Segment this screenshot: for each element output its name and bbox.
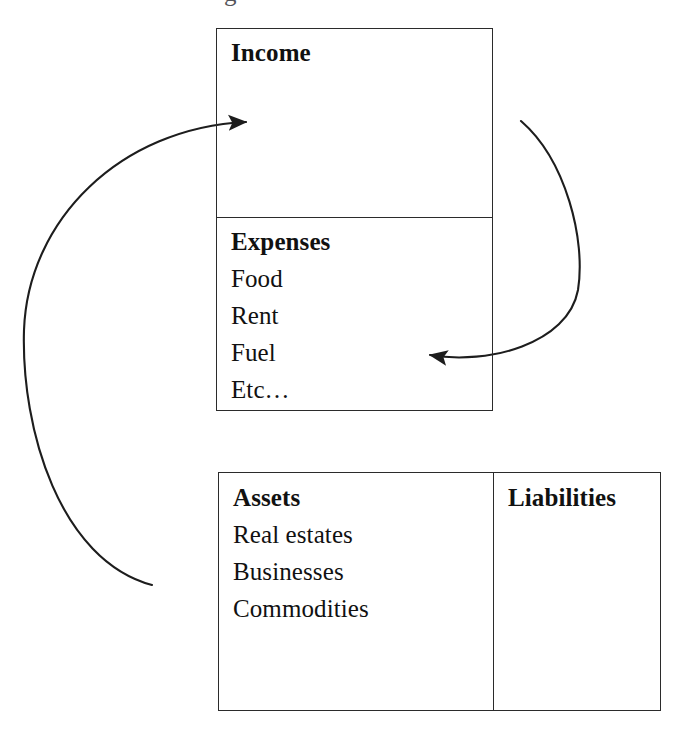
expenses-item: Fuel [231,334,492,371]
clipped-text-fragment: g [0,0,687,9]
assets-item: Businesses [233,553,493,590]
diagram-canvas: g Income Expenses Food Rent Fuel Etc… [0,0,687,744]
income-heading: Income [231,34,492,71]
clipped-text-fragment-glyph: g [224,0,237,9]
expenses-heading: Expenses [231,223,492,260]
assets-to-income-arrow [24,122,246,585]
assets-heading: Assets [233,479,493,516]
liabilities-section: Liabilities [494,473,662,710]
balance-sheet-box: Assets Real estates Businesses Commoditi… [218,472,661,711]
assets-item: Real estates [233,516,493,553]
expenses-section: Expenses Food Rent Fuel Etc… [217,218,492,411]
expenses-item: Food [231,260,492,297]
income-section: Income [217,29,492,217]
assets-section: Assets Real estates Businesses Commoditi… [219,473,493,710]
expenses-item: Etc… [231,371,492,408]
expenses-item: Rent [231,297,492,334]
assets-item: Commodities [233,590,493,627]
liabilities-heading: Liabilities [508,479,662,516]
income-statement-box: Income Expenses Food Rent Fuel Etc… [216,28,493,411]
